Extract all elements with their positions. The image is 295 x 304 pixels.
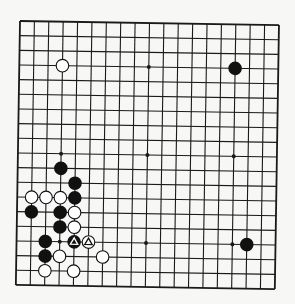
black-stone-disc <box>240 238 254 252</box>
star-point <box>144 241 148 245</box>
white-stone-disc <box>67 265 80 278</box>
white-stone-disc <box>40 191 53 204</box>
black-stone-disc <box>68 191 82 205</box>
black-stone[interactable] <box>240 238 254 252</box>
go-board-grid <box>6 11 289 299</box>
white-stone[interactable] <box>68 206 81 219</box>
black-stone[interactable] <box>53 205 67 219</box>
go-board[interactable] <box>16 21 279 289</box>
black-stone[interactable] <box>54 161 68 175</box>
black-stone-disc <box>38 249 52 263</box>
black-stone[interactable] <box>67 235 81 249</box>
white-stone-disc <box>96 251 109 264</box>
black-stone[interactable] <box>38 235 52 249</box>
white-stone-disc <box>56 59 69 72</box>
black-stone[interactable] <box>228 61 242 75</box>
white-stone[interactable] <box>38 264 51 277</box>
black-stone[interactable] <box>53 220 67 234</box>
black-stone-disc <box>68 176 82 190</box>
star-point <box>59 152 63 156</box>
black-stone-disc <box>53 205 67 219</box>
black-stone[interactable] <box>68 176 82 190</box>
white-stone-disc <box>38 264 51 277</box>
star-point <box>147 65 151 69</box>
white-stone[interactable] <box>68 221 81 234</box>
black-stone[interactable] <box>38 249 52 263</box>
black-stone-disc <box>54 161 68 175</box>
black-stone-disc <box>228 61 242 75</box>
black-stone-disc <box>24 205 38 219</box>
black-stone-disc <box>38 235 52 249</box>
star-point <box>145 153 149 157</box>
black-stone-disc <box>53 220 67 234</box>
white-stone[interactable] <box>40 191 53 204</box>
star-point <box>230 242 234 246</box>
white-stone[interactable] <box>56 59 69 72</box>
white-stone-disc <box>54 191 67 204</box>
white-stone[interactable] <box>67 265 80 278</box>
white-stone[interactable] <box>25 191 38 204</box>
white-stone[interactable] <box>82 236 95 249</box>
white-stone-disc <box>25 191 38 204</box>
black-stone[interactable] <box>24 205 38 219</box>
black-stone[interactable] <box>68 191 82 205</box>
star-point <box>58 240 62 244</box>
white-stone[interactable] <box>54 191 67 204</box>
white-stone-disc <box>68 221 81 234</box>
white-stone[interactable] <box>53 250 66 263</box>
white-stone[interactable] <box>96 251 109 264</box>
star-point <box>232 154 236 158</box>
white-stone-disc <box>53 250 66 263</box>
white-stone-disc <box>68 206 81 219</box>
